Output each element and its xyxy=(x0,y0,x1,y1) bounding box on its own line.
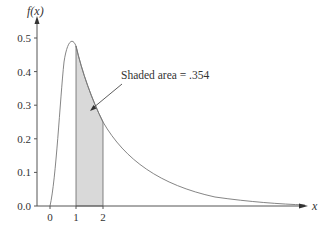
x-axis-arrow-icon xyxy=(299,204,308,209)
density-chart: 0.0 0.1 0.2 0.3 0.4 0.5 0 1 2 f(x) x Sha… xyxy=(0,0,324,233)
x-axis-label: x xyxy=(311,199,318,213)
y-tick-label: 0.1 xyxy=(17,166,31,178)
y-tick-label: 0.2 xyxy=(17,133,31,145)
y-tick-label: 0.3 xyxy=(17,99,31,111)
shaded-area xyxy=(76,46,103,206)
x-tick-label: 1 xyxy=(73,211,79,223)
annotation-leader-line xyxy=(93,84,122,108)
y-axis-label: f(x) xyxy=(27,4,44,18)
x-tick-label: 2 xyxy=(100,211,106,223)
y-tick-label: 0.0 xyxy=(17,200,31,212)
y-tick-label: 0.5 xyxy=(17,32,31,44)
x-tick-label: 0 xyxy=(47,211,53,223)
shaded-area-annotation: Shaded area = .354 xyxy=(121,69,209,81)
y-tick-label: 0.4 xyxy=(17,66,31,78)
